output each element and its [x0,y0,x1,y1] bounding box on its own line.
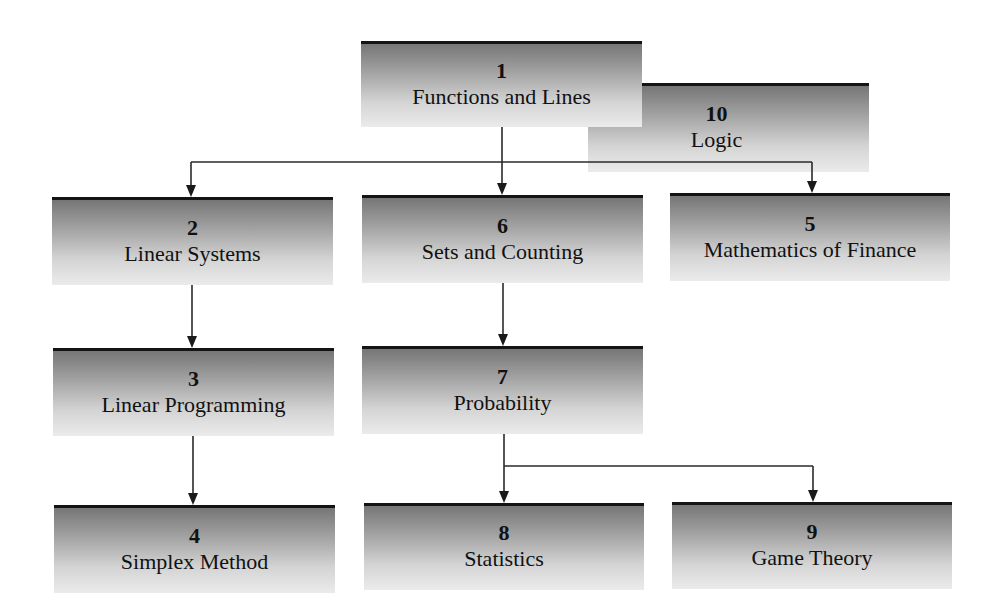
box-linear-programming[interactable]: 3 Linear Programming [53,348,334,436]
box-probability[interactable]: 7 Probability [362,346,643,434]
box-mathematics-of-finance[interactable]: 5 Mathematics of Finance [670,193,950,281]
box-functions-and-lines[interactable]: 1 Functions and Lines [361,41,642,127]
box-statistics[interactable]: 8 Statistics [364,503,644,590]
box-game-theory[interactable]: 9 Game Theory [672,502,952,589]
chapter-title: Linear Programming [102,391,286,419]
chapter-number: 2 [187,216,198,240]
box-simplex-method[interactable]: 4 Simplex Method [54,505,335,593]
chapter-title: Linear Systems [124,240,260,268]
arrowhead-icon [807,181,817,193]
chapter-title: Sets and Counting [422,238,583,266]
chapter-number: 10 [706,102,728,126]
chapter-title: Statistics [464,545,543,573]
arrowhead-icon [498,334,508,346]
chapter-number: 4 [189,524,200,548]
chapter-title: Functions and Lines [412,83,590,111]
arrowhead-icon [808,490,818,502]
chapter-number: 3 [188,367,199,391]
chapter-number: 8 [499,521,510,545]
chapter-flowchart: 1 Functions and Lines 10 Logic 2 Linear … [0,0,1001,616]
chapter-title: Game Theory [751,544,872,572]
chapter-title: Probability [454,389,552,417]
chapter-number: 9 [807,520,818,544]
chapter-title: Mathematics of Finance [704,236,917,264]
box-linear-systems[interactable]: 2 Linear Systems [52,197,333,285]
arrowhead-icon [187,336,197,348]
chapter-number: 6 [497,214,508,238]
arrowhead-icon [186,185,196,197]
chapter-number: 1 [496,59,507,83]
chapter-number: 7 [497,365,508,389]
chapter-title: Logic [691,126,742,154]
arrowhead-icon [499,491,509,503]
chapter-title: Simplex Method [121,548,268,576]
arrowhead-icon [188,493,198,505]
arrowhead-icon [497,183,507,195]
box-sets-and-counting[interactable]: 6 Sets and Counting [362,195,643,283]
chapter-number: 5 [805,212,816,236]
